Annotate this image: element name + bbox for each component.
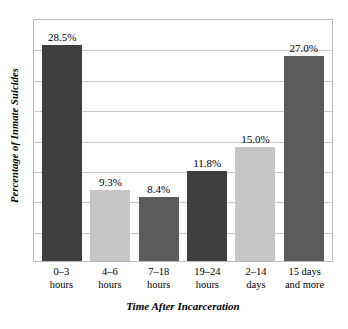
bar-group[interactable]: 15.0% xyxy=(235,20,275,261)
bar-group[interactable]: 9.3% xyxy=(90,20,130,261)
bar-value-label: 28.5% xyxy=(27,31,97,43)
x-axis-tick-labels: 0–3hours4–6hours7–18hours19–24hours2–14d… xyxy=(33,265,333,301)
bar-value-label: 8.4% xyxy=(124,183,194,195)
x-tick-label: 0–3hours xyxy=(41,265,81,301)
x-tick-label: 4–6hours xyxy=(90,265,130,301)
bar-value-label: 15.0% xyxy=(220,133,290,145)
bar-group[interactable]: 27.0% xyxy=(284,20,324,261)
bar-group[interactable]: 28.5% xyxy=(42,20,82,261)
x-tick-label: 7–18hours xyxy=(139,265,179,301)
bar-value-label: 27.0% xyxy=(269,42,339,54)
x-tick-label: 2–14days xyxy=(236,265,276,301)
bar-value-label: 11.8% xyxy=(172,157,242,169)
bar-rect[interactable] xyxy=(284,56,324,261)
y-axis-title-label: Percentage of Inmate Suicides xyxy=(9,67,20,202)
bar-group[interactable]: 8.4% xyxy=(139,20,179,261)
x-axis-title: Time After Incarceration xyxy=(33,300,333,312)
bar-rect[interactable] xyxy=(235,147,275,261)
bar-rect[interactable] xyxy=(42,45,82,261)
bar-rect[interactable] xyxy=(139,197,179,261)
bar-chart-figure: Percentage of Inmate Suicides 28.5%9.3%8… xyxy=(0,0,348,329)
x-tick-label: 15 daysand more xyxy=(285,265,325,301)
x-tick-label: 19–24hours xyxy=(187,265,227,301)
plot-area: 28.5%9.3%8.4%11.8%15.0%27.0% xyxy=(33,19,333,262)
bar-rect[interactable] xyxy=(187,171,227,261)
bars-container: 28.5%9.3%8.4%11.8%15.0%27.0% xyxy=(34,20,332,261)
y-axis-title: Percentage of Inmate Suicides xyxy=(0,0,28,270)
bar-rect[interactable] xyxy=(90,190,130,261)
